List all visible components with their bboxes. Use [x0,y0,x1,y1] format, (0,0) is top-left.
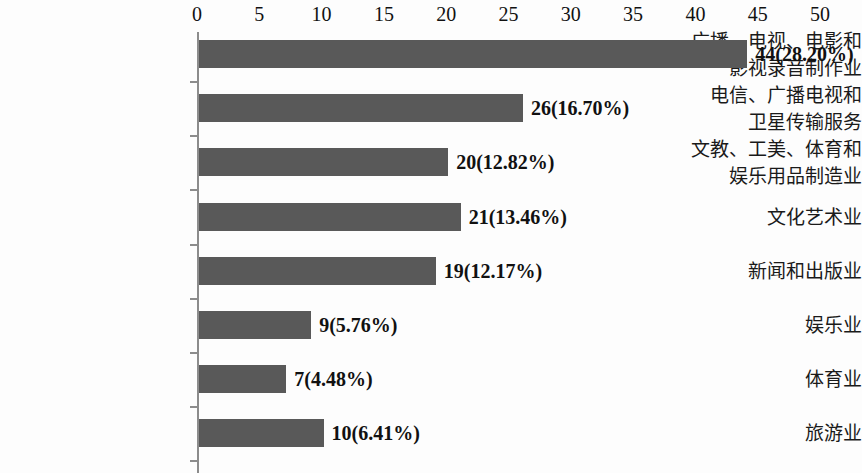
category-label: 文化艺术业 [673,204,862,231]
bar-value-label: 20(12.82%) [456,148,554,176]
bar [199,203,461,231]
chart-plot-area: 广播、电视、电影和 影视录音制作业44(28.20%)电信、广播电视和 卫星传输… [0,0,862,473]
bar-value-label: 7(4.48%) [294,365,372,393]
bar-value-label: 9(5.76%) [319,311,397,339]
chart-bar-row: 广播、电视、电影和 影视录音制作业44(28.20%) [0,40,862,68]
bar [199,40,747,68]
category-label: 文教、工美、体育和 娱乐用品制造业 [673,136,862,190]
category-axis-tick [190,81,197,83]
category-label: 旅游业 [673,420,862,447]
chart-bar-row: 电信、广播电视和 卫星传输服务26(16.70%) [0,94,862,122]
bar [199,419,324,447]
category-axis-tick [190,244,197,246]
bar [199,311,311,339]
category-axis-tick [190,460,197,462]
category-axis-tick [190,298,197,300]
chart-bar-row: 文教、工美、体育和 娱乐用品制造业20(12.82%) [0,148,862,176]
bar [199,148,448,176]
category-label: 电信、广播电视和 卫星传输服务 [673,82,862,136]
category-label: 娱乐业 [673,312,862,339]
bar [199,257,436,285]
category-axis-tick [190,406,197,408]
chart-bar-row: 旅游业10(6.41%) [0,419,862,447]
category-axis-tick [190,135,197,137]
category-label: 新闻和出版业 [673,258,862,285]
bar-value-label: 21(13.46%) [469,203,567,231]
chart-bar-row: 文化艺术业21(13.46%) [0,203,862,231]
horizontal-bar-chart: 05101520253035404550 广播、电视、电影和 影视录音制作业44… [0,0,862,473]
chart-bar-row: 娱乐业9(5.76%) [0,311,862,339]
chart-bar-row: 体育业7(4.48%) [0,365,862,393]
bar-value-label: 26(16.70%) [531,94,629,122]
category-axis-tick [190,352,197,354]
bar [199,94,523,122]
bar-value-label: 19(12.17%) [444,257,542,285]
chart-bar-row: 新闻和出版业19(12.17%) [0,257,862,285]
bar-value-label: 10(6.41%) [332,419,420,447]
category-label: 体育业 [673,366,862,393]
bar-value-label: 44(28.20%) [755,40,853,68]
bar [199,365,286,393]
category-axis-tick [190,189,197,191]
